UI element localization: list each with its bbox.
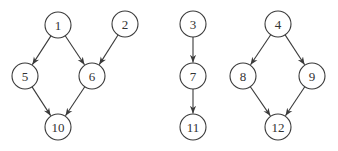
edge-arrow-1-to-5 [32,36,51,65]
node-label: 6 [89,69,96,84]
edge-arrow-2-to-6 [99,35,118,65]
node-9: 9 [299,63,325,89]
edge-arrow-5-to-10 [32,87,51,116]
node-10: 10 [45,114,71,140]
nodes: 125610371148912 [12,11,325,140]
node-label: 11 [187,120,200,135]
node-6: 6 [79,63,105,89]
node-label: 10 [52,120,65,135]
node-1: 1 [45,12,71,38]
node-label: 5 [22,69,29,84]
node-label: 12 [272,120,285,135]
node-label: 9 [309,69,316,84]
node-4: 4 [265,11,291,37]
node-12: 12 [265,114,291,140]
edge-arrow-6-to-10 [65,87,84,116]
node-label: 7 [190,69,197,84]
node-label: 2 [122,17,129,32]
edge-arrow-4-to-9 [285,35,304,65]
edges [32,35,305,116]
node-8: 8 [230,63,256,89]
edge-arrow-1-to-6 [65,36,84,65]
node-label: 1 [55,18,62,33]
node-label: 3 [190,17,197,32]
node-label: 8 [240,69,247,84]
edge-arrow-4-to-8 [251,35,271,65]
node-5: 5 [12,63,38,89]
dag-diagram: 125610371148912 [0,0,338,151]
node-2: 2 [112,11,138,37]
node-3: 3 [180,11,206,37]
node-11: 11 [180,114,206,140]
edge-arrow-9-to-12 [285,87,304,116]
node-label: 4 [275,17,282,32]
edge-arrow-8-to-12 [250,87,270,116]
node-7: 7 [180,63,206,89]
